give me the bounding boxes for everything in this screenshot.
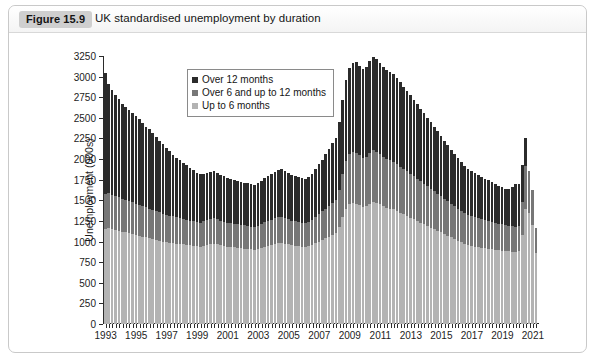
x-axis-tick <box>533 324 534 328</box>
x-axis-tick <box>472 324 473 328</box>
bar-segment <box>199 247 202 325</box>
x-axis-tick <box>506 324 507 328</box>
bar-segment <box>135 235 138 324</box>
bar-segment <box>311 220 314 245</box>
bar-segment <box>491 222 494 249</box>
bar-segment <box>396 78 399 164</box>
bar-segment <box>450 204 453 238</box>
bar-segment <box>507 251 510 324</box>
x-axis-tick <box>513 324 514 328</box>
bar-segment <box>501 224 504 250</box>
bar-segment <box>226 178 229 223</box>
bar-segment <box>219 245 222 324</box>
bar-segment <box>202 174 205 222</box>
x-axis-tick <box>285 324 286 328</box>
bar-segment <box>202 246 205 324</box>
bar-segment <box>257 249 260 324</box>
bar-segment <box>158 241 161 324</box>
bar-segment <box>511 187 514 227</box>
bar-segment <box>148 129 151 208</box>
bar-segment <box>446 236 449 324</box>
bar-segment <box>531 225 534 324</box>
bar-segment <box>430 189 433 228</box>
x-axis-tick <box>516 324 517 328</box>
bar-segment <box>263 178 266 222</box>
figure-card: Figure 15.9 UK standardised unemployment… <box>8 5 587 353</box>
x-axis-tick <box>374 324 375 328</box>
bar-segment <box>158 141 161 213</box>
bar-segment <box>135 204 138 235</box>
bar-segment <box>179 160 182 218</box>
y-axis-tick-label: 500 <box>79 277 96 288</box>
bar-segment <box>477 247 480 324</box>
bar-segment <box>507 189 510 226</box>
bar-segment <box>338 122 341 190</box>
x-axis-tick-label: 2001 <box>217 330 239 341</box>
x-axis-tick <box>519 324 520 328</box>
bar-segment <box>494 184 497 223</box>
bar-segment <box>352 63 355 152</box>
bar-segment <box>236 248 239 324</box>
bar-segment <box>345 161 348 209</box>
bar-segment <box>497 224 500 251</box>
y-axis-tick-label: 750 <box>79 257 96 268</box>
bar-segment <box>162 242 165 324</box>
bar-segment <box>497 186 500 224</box>
bar-segment <box>182 163 185 219</box>
x-axis-tick <box>262 324 263 328</box>
bar-segment <box>151 210 154 239</box>
bar-segment <box>416 221 419 324</box>
x-axis-tick <box>160 324 161 328</box>
bar-segment <box>416 104 419 179</box>
bar-segment <box>280 217 283 243</box>
bar-segment <box>399 82 402 166</box>
bar-segment <box>189 168 192 221</box>
legend-label: Over 6 and up to 12 months <box>202 87 326 98</box>
bar-segment <box>145 127 148 208</box>
bar-segment <box>436 131 439 193</box>
bar-segment <box>175 244 178 324</box>
bar-segment <box>436 194 439 231</box>
x-axis-tick-label: 1995 <box>125 330 147 341</box>
bar-segment <box>145 207 148 237</box>
figure-header: Figure 15.9 UK standardised unemployment… <box>9 6 586 33</box>
x-axis-tick <box>279 324 280 328</box>
x-axis-tick <box>452 324 453 328</box>
x-axis-tick <box>272 324 273 328</box>
bar-segment <box>206 220 209 245</box>
bar-segment <box>209 172 212 219</box>
bar-segment <box>335 233 338 324</box>
x-axis-tick <box>343 324 344 328</box>
bar-segment <box>335 138 338 200</box>
bar-segment <box>402 87 405 169</box>
bar-segment <box>199 174 202 223</box>
bar-segment <box>358 66 361 156</box>
x-axis-tick <box>401 324 402 328</box>
bar-segment <box>487 221 490 249</box>
x-axis-tick-label: 2013 <box>400 330 422 341</box>
bar-segment <box>233 247 236 324</box>
x-axis-tick-label: 2015 <box>430 330 452 341</box>
y-axis-tick-label: 2500 <box>74 112 96 123</box>
bar-segment <box>233 180 236 224</box>
bar-segment <box>128 110 131 202</box>
bar-segment <box>226 223 229 247</box>
y-axis-tick-label: 3000 <box>74 71 96 82</box>
bar-segment <box>396 211 399 324</box>
bar-segment <box>345 80 348 161</box>
bar-segment <box>192 170 195 221</box>
bar-segment <box>162 214 165 242</box>
x-axis-tick <box>119 324 120 328</box>
bar-segment <box>419 181 422 222</box>
bar-segment <box>443 199 446 234</box>
bar-segment <box>141 237 144 324</box>
bar-segment <box>216 244 219 324</box>
bar-segment <box>131 113 134 202</box>
bar-segment <box>504 225 507 251</box>
bar-segment <box>124 107 127 200</box>
bar-segment <box>290 175 293 221</box>
y-axis-tick-label: 1250 <box>74 215 96 226</box>
x-axis-tick <box>194 324 195 328</box>
bar-segment <box>209 244 212 324</box>
y-axis-tick <box>99 56 103 57</box>
